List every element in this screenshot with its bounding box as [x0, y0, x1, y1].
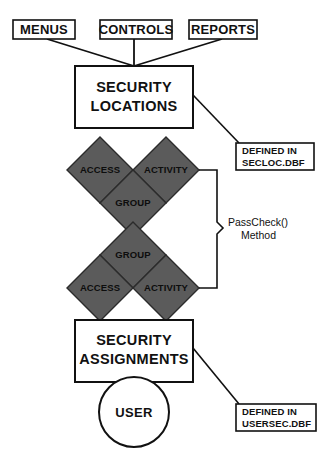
- seclocation-annotation-line2: SECLOC.DBF: [242, 157, 305, 168]
- user-node[interactable]: USER: [99, 377, 169, 447]
- reports-node[interactable]: REPORTS: [189, 20, 257, 39]
- security-locations-label-line1: SECURITY: [96, 79, 172, 95]
- seclocation-annotation-line1: DEFINED IN: [242, 145, 297, 156]
- security-assignments-node[interactable]: SECURITY ASSIGNMENTS: [75, 320, 193, 382]
- menus-label: MENUS: [20, 22, 68, 37]
- diamond-activity-lower-label: ACTIVITY: [144, 282, 189, 293]
- seclocation-defined-in-annotation[interactable]: DEFINED IN SECLOC.DBF: [236, 143, 314, 170]
- security-assignments-label-line2: ASSIGNMENTS: [79, 351, 189, 367]
- usersec-annotation-line1: DEFINED IN: [242, 406, 297, 417]
- user-label: USER: [115, 405, 153, 420]
- reports-label: REPORTS: [191, 22, 255, 37]
- top-connectors: [47, 39, 222, 66]
- usersec-defined-in-annotation[interactable]: DEFINED IN USERSEC.DBF: [236, 404, 316, 431]
- diamond-access-lower-label: ACCESS: [80, 282, 120, 293]
- diamond-access-upper-label: ACCESS: [80, 164, 120, 175]
- security-locations-box[interactable]: [75, 66, 193, 128]
- security-locations-node[interactable]: SECURITY LOCATIONS: [75, 66, 193, 128]
- passcheck-bracket: PassCheck() Method: [199, 170, 288, 288]
- controls-label: CONTROLS: [99, 22, 174, 37]
- leader-assignments-to-usersec-annotation: [193, 348, 239, 404]
- controls-node[interactable]: CONTROLS: [99, 20, 174, 39]
- usersec-annotation-line2: USERSEC.DBF: [242, 418, 311, 429]
- passcheck-bracket-path: [199, 170, 223, 288]
- diagram-canvas: MENUS CONTROLS REPORTS SECURITY LOCATION…: [0, 0, 318, 458]
- leader-locations-to-secloc-annotation: [193, 95, 239, 143]
- diamond-activity-upper-label: ACTIVITY: [144, 164, 189, 175]
- menus-node[interactable]: MENUS: [13, 20, 75, 39]
- diamond-group-upper-label: GROUP: [115, 197, 151, 208]
- passcheck-method-label-line1: PassCheck(): [228, 216, 288, 228]
- passcheck-method-label-line2: Method: [241, 229, 276, 241]
- security-locations-label-line2: LOCATIONS: [90, 98, 177, 114]
- diamond-group-lower-label: GROUP: [115, 249, 151, 260]
- security-structure-diagram: MENUS CONTROLS REPORTS SECURITY LOCATION…: [0, 0, 318, 458]
- connector-menus-to-locations: [47, 39, 134, 66]
- lower-diamond-cluster: GROUP ACCESS ACTIVITY: [67, 222, 199, 321]
- connector-reports-to-locations: [134, 39, 222, 66]
- security-assignments-label-line1: SECURITY: [96, 332, 172, 348]
